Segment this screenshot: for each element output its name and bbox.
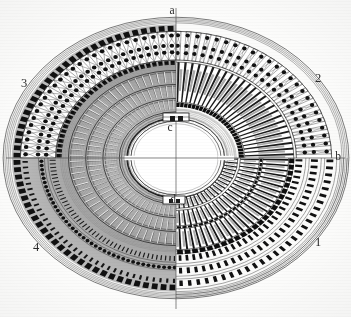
- axis-label-a: a: [169, 4, 174, 16]
- axis-label-c: c: [167, 121, 172, 133]
- quadrant-label-1: 1: [315, 235, 321, 249]
- quadrant-label-3: 3: [21, 76, 27, 90]
- quadrant-label-2: 2: [315, 71, 321, 85]
- axis-label-b: b: [335, 150, 341, 162]
- axis-label-d: d: [170, 193, 176, 205]
- quadrant-label-4: 4: [33, 240, 40, 254]
- plan-drawing: a b c d 1 2 3 4: [0, 0, 351, 317]
- amphitheatre-plan-figure: a b c d 1 2 3 4: [0, 0, 351, 317]
